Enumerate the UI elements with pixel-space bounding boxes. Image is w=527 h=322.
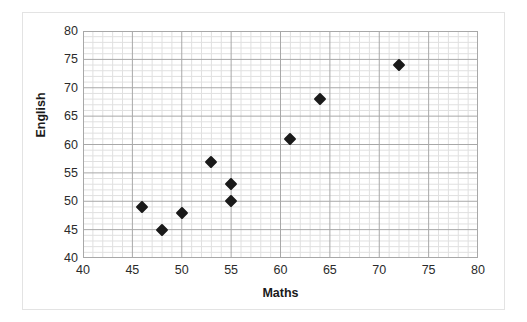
data-point: [393, 59, 406, 72]
y-axis-tick-label: 75: [38, 53, 78, 66]
x-axis-title: Maths: [83, 286, 478, 300]
y-axis-tick-label: 80: [38, 25, 78, 38]
scatter-chart: 404550556065707580 404550556065707580 Ma…: [0, 0, 527, 322]
x-axis-tick-label: 80: [456, 264, 500, 277]
data-point: [136, 201, 149, 214]
y-axis-tick-label: 45: [38, 223, 78, 236]
data-point: [225, 178, 238, 191]
data-points-layer: [83, 31, 478, 258]
x-axis-tick-label: 75: [407, 264, 451, 277]
data-point: [156, 223, 169, 236]
data-point: [225, 195, 238, 208]
data-point: [314, 93, 327, 106]
data-point: [205, 155, 218, 168]
x-axis-tick-label: 70: [357, 264, 401, 277]
x-axis-tick-label: 50: [160, 264, 204, 277]
data-point: [175, 206, 188, 219]
x-axis-tick-label: 55: [209, 264, 253, 277]
x-axis-tick-label: 40: [61, 264, 105, 277]
x-axis-tick-label: 65: [308, 264, 352, 277]
x-axis-tick-label: 60: [259, 264, 303, 277]
y-axis-tick-label: 50: [38, 195, 78, 208]
y-axis-title: English: [34, 70, 48, 160]
plot-area: [83, 31, 478, 258]
y-axis-tick-label: 40: [38, 252, 78, 265]
x-axis-tick-label: 45: [110, 264, 154, 277]
y-axis-tick-label: 55: [38, 167, 78, 180]
x-axis-tick-labels: 404550556065707580: [83, 264, 478, 282]
data-point: [284, 132, 297, 145]
